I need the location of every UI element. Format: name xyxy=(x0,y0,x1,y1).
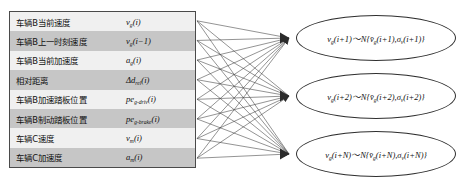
edge xyxy=(197,154,289,158)
edge xyxy=(197,38,289,99)
edge xyxy=(197,21,289,38)
arrowhead-icon xyxy=(280,149,290,160)
edge xyxy=(197,38,289,139)
output-formula: vg(i+1)～N{v̄g(i+1),σv(i+1)} xyxy=(327,32,424,44)
output-node-1: vg(i+1)～N{v̄g(i+1),σv(i+1)} xyxy=(296,15,456,61)
output-formula: vg(i+N)～N{v̄g(i+N),σv(i+N)} xyxy=(325,148,427,160)
edge xyxy=(197,38,289,80)
output-node-3: vg(i+N)～N{v̄g(i+N),σv(i+N)} xyxy=(296,131,456,177)
edge xyxy=(197,40,289,154)
edge xyxy=(197,139,289,154)
output-formula: vg(i+2)～N{v̄g(i+2),σv(i+2)} xyxy=(327,90,424,102)
arrowhead-icon xyxy=(280,91,290,102)
edge xyxy=(197,96,289,139)
output-node-2: vg(i+2)～N{v̄g(i+2),σv(i+2)} xyxy=(296,73,456,119)
edge xyxy=(197,38,289,40)
edge xyxy=(197,21,289,96)
diagram-canvas: 车辆B当前速度 vg(i) 车辆B上一时刻速度 vg(i−1) 车辆B当前加速度… xyxy=(0,0,461,187)
